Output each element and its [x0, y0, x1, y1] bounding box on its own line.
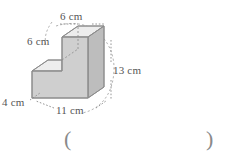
answer-row: ( ): [0, 124, 226, 159]
answer-open-paren: (: [64, 128, 71, 150]
answer-input-blank[interactable]: [78, 130, 204, 152]
leader-11cm-right: [96, 101, 106, 108]
dimension-label-step-depth: 6 cm: [27, 36, 50, 47]
dimension-label-top-width: 6 cm: [60, 11, 83, 22]
top-face-step: [32, 60, 62, 71]
dimension-label-right-height: 13 cm: [113, 65, 141, 76]
dimension-label-bottom-width: 11 cm: [56, 105, 84, 116]
leader-11cm-left: [36, 101, 54, 108]
answer-close-paren: ): [206, 128, 213, 150]
right-side-face: [88, 26, 104, 98]
dimension-label-bottom-left-height: 4 cm: [2, 97, 25, 108]
